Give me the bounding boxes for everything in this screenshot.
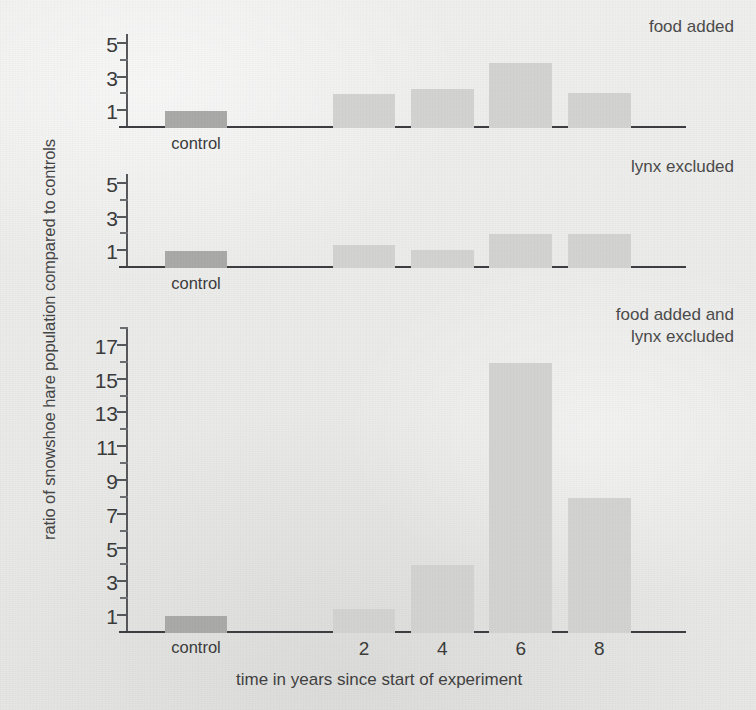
bar-2 <box>333 245 396 269</box>
y-axis-tick-label: 5 <box>106 538 118 559</box>
y-axis-minor-tick <box>120 563 128 565</box>
plot-area-food-added-and-lynx-excluded: 1357911131517 <box>126 329 686 633</box>
bar-4 <box>411 250 474 268</box>
bar-control <box>165 251 228 268</box>
y-axis-tick <box>117 445 128 447</box>
y-axis-minor-tick <box>120 232 128 234</box>
y-axis-line <box>126 174 128 268</box>
panel-food-added-and-lynx-excluded: food added and lynx excluded 13579111315… <box>0 290 756 710</box>
y-axis-tick-label: 1 <box>106 101 118 122</box>
y-axis-tick <box>117 580 128 582</box>
y-axis-tick <box>117 378 128 380</box>
y-axis-minor-tick <box>120 462 128 464</box>
y-axis-tick-label: 3 <box>106 67 118 88</box>
bar-8 <box>568 234 631 268</box>
panel-food-added: food added 135 control <box>0 0 756 145</box>
y-axis-line <box>126 34 128 128</box>
y-axis-minor-tick <box>120 395 128 397</box>
y-axis-tick-label: 15 <box>95 369 118 390</box>
y-axis-tick <box>117 42 128 44</box>
bar-control <box>165 616 228 633</box>
y-axis-minor-tick <box>120 597 128 599</box>
x-axis-tick-label-8: 8 <box>594 638 605 660</box>
y-axis-tick <box>117 479 128 481</box>
x-axis-tick-label-2: 2 <box>359 638 370 660</box>
y-axis-tick <box>117 513 128 515</box>
y-axis-minor-tick <box>120 428 128 430</box>
bar-6 <box>489 234 552 268</box>
y-axis-tick <box>117 411 128 413</box>
x-axis-tick-label-6: 6 <box>516 638 527 660</box>
bar-8 <box>568 93 631 128</box>
y-axis-minor-tick <box>120 92 128 94</box>
y-axis-tick-label: 17 <box>95 335 118 356</box>
y-axis-tick-label: 11 <box>96 437 118 458</box>
y-axis-minor-tick <box>120 327 128 329</box>
y-axis-minor-tick <box>120 361 128 363</box>
y-axis-tick-label: 1 <box>106 241 118 262</box>
bar-2 <box>333 94 396 128</box>
y-axis-tick <box>117 182 128 184</box>
y-axis-tick <box>117 216 128 218</box>
y-axis-tick <box>117 76 128 78</box>
y-axis-tick-label: 5 <box>106 34 118 55</box>
bar-2 <box>333 609 396 633</box>
x-axis-tick-labels: control2468 <box>126 638 686 668</box>
bar-4 <box>411 565 474 633</box>
y-axis-tick <box>117 547 128 549</box>
bar-6 <box>489 63 552 128</box>
y-axis-minor-tick <box>120 530 128 532</box>
bar-6 <box>489 363 552 633</box>
y-axis-tick <box>117 249 128 251</box>
y-axis-tick-label: 3 <box>106 572 118 593</box>
y-axis-tick-label: 7 <box>106 504 118 525</box>
panel-lynx-excluded: lynx excluded 135 control <box>0 140 756 285</box>
bar-4 <box>411 89 474 128</box>
plot-area-lynx-excluded: 135 <box>126 174 686 268</box>
x-axis-title: time in years since start of experiment <box>236 670 522 690</box>
y-axis-minor-tick <box>120 59 128 61</box>
y-axis-tick <box>117 344 128 346</box>
bar-8 <box>568 498 631 633</box>
y-axis-tick <box>117 614 128 616</box>
x-axis-tick-label-control: control <box>171 638 221 657</box>
figure-root: ratio of snowshoe hare population compar… <box>0 0 756 710</box>
y-axis-tick-label: 13 <box>95 403 118 424</box>
x-axis-tick-label-4: 4 <box>437 638 448 660</box>
y-axis-minor-tick <box>120 199 128 201</box>
y-axis-tick-label: 3 <box>106 207 118 228</box>
y-axis-tick-label: 9 <box>106 471 118 492</box>
y-axis-tick-label: 5 <box>106 174 118 195</box>
y-axis-line <box>126 329 128 633</box>
plot-area-food-added: 135 <box>126 34 686 128</box>
bar-control <box>165 111 228 128</box>
y-axis-tick <box>117 109 128 111</box>
y-axis-tick-label: 1 <box>106 606 118 627</box>
y-axis-minor-tick <box>120 496 128 498</box>
